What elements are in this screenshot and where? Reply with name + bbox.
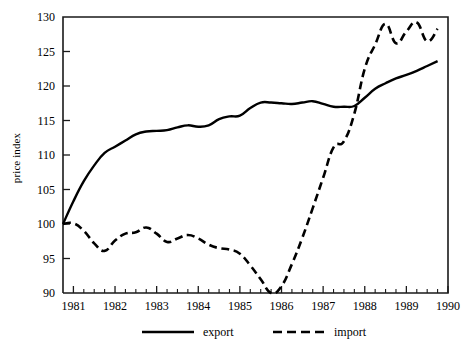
y-tick-label: 130 — [27, 11, 55, 23]
y-tick-label: 120 — [27, 80, 55, 92]
x-tick-label: 1983 — [137, 300, 177, 312]
legend-label-import: import — [334, 326, 366, 338]
y-tick-label: 110 — [27, 149, 55, 161]
y-tick-label: 125 — [27, 46, 55, 58]
x-tick-label: 1981 — [53, 300, 93, 312]
y-tick-label: 90 — [27, 287, 55, 299]
x-tick-label: 1988 — [345, 300, 385, 312]
plot-area — [0, 0, 476, 349]
y-axis-title: price index — [10, 108, 22, 208]
series-line-export — [63, 61, 438, 224]
x-tick-label: 1984 — [178, 300, 218, 312]
y-tick-label: 115 — [27, 115, 55, 127]
y-tick-label: 105 — [27, 184, 55, 196]
x-tick-label: 1990 — [428, 300, 468, 312]
legend-swatch-export-solid-line — [142, 326, 194, 338]
chart-legend: export import — [0, 322, 476, 346]
x-tick-label: 1986 — [262, 300, 302, 312]
x-tick-label: 1985 — [220, 300, 260, 312]
legend-swatch-import-dashed-line — [273, 326, 325, 338]
series-line-import — [63, 22, 438, 293]
x-tick-label: 1987 — [303, 300, 343, 312]
legend-entry-export: export — [142, 322, 234, 342]
legend-label-export: export — [203, 326, 234, 338]
price-index-line-chart: price index 9095100105110115120125130 19… — [0, 0, 476, 349]
x-tick-label: 1982 — [95, 300, 135, 312]
legend-entry-import: import — [273, 322, 366, 342]
axes-frame — [63, 17, 448, 293]
x-tick-label: 1989 — [386, 300, 426, 312]
y-tick-label: 100 — [27, 218, 55, 230]
y-tick-label: 95 — [27, 253, 55, 265]
